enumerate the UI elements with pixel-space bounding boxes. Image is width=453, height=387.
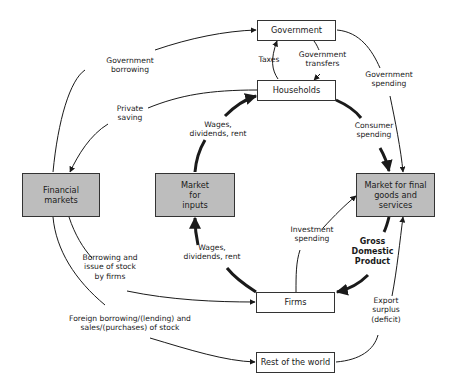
taxes-label: Taxes bbox=[254, 55, 284, 64]
market-for-final-goods-box: Market for final goods and services bbox=[356, 173, 435, 217]
firms-box: Firms bbox=[256, 292, 335, 313]
gdp-label: Gross Domestic Product bbox=[350, 237, 395, 267]
investment-spending-label: Investment spending bbox=[287, 225, 337, 244]
export-surplus-label: Export surplus (deficit) bbox=[368, 296, 404, 324]
firms-label: Firms bbox=[285, 297, 307, 307]
wages-bottom-label: Wages, dividends, rent bbox=[177, 243, 247, 262]
government-spending-label: Government spending bbox=[358, 70, 420, 89]
government-borrowing-arrow bbox=[53, 30, 256, 172]
households-label: Households bbox=[273, 85, 321, 95]
rest-of-world-box: Rest of the world bbox=[256, 352, 335, 373]
investment-spending-arrow bbox=[296, 196, 356, 292]
government-borrowing-label: Government borrowing bbox=[100, 56, 160, 75]
rest-of-world-label: Rest of the world bbox=[261, 357, 331, 367]
financial-markets-label: Financial markets bbox=[43, 185, 79, 206]
market-for-final-goods-label: Market for final goods and services bbox=[364, 180, 426, 211]
financial-markets-box: Financial markets bbox=[22, 173, 100, 217]
foreign-borrowing-label: Foreign borrowing/(lending) and sales/(p… bbox=[60, 314, 200, 333]
market-for-inputs-label: Market for inputs bbox=[181, 180, 209, 211]
market-for-inputs-box: Market for inputs bbox=[155, 173, 235, 217]
wages-top-label: Wages, dividends, rent bbox=[183, 120, 253, 139]
foreign-borrowing-arrow bbox=[53, 217, 255, 362]
consumer-spending-label: Consumer spending bbox=[350, 121, 398, 140]
households-box: Households bbox=[257, 80, 336, 101]
private-saving-label: Private saving bbox=[110, 104, 150, 123]
borrowing-issue-stock-label: Borrowing and issue of stock by firms bbox=[77, 253, 143, 281]
government-transfers-label: Government transfers bbox=[295, 50, 350, 69]
government-box: Government bbox=[257, 20, 336, 41]
government-label: Government bbox=[271, 25, 322, 35]
